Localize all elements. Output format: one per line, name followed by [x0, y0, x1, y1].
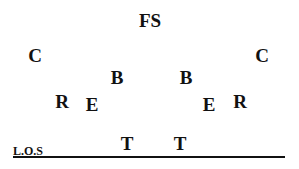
- player-end-right: E: [203, 95, 216, 114]
- line-of-scrimmage: [13, 156, 285, 158]
- player-cornerback-left: C: [28, 46, 42, 65]
- player-linebacker-right: B: [180, 68, 193, 87]
- player-linebacker-left: B: [111, 68, 124, 87]
- player-cornerback-right: C: [255, 46, 269, 65]
- player-end-left: E: [86, 95, 99, 114]
- player-tackle-right: T: [174, 134, 187, 153]
- player-r-right: R: [233, 92, 247, 111]
- player-free-safety: FS: [139, 11, 161, 30]
- player-tackle-left: T: [121, 134, 134, 153]
- formation-diagram: FS C C B B R E E R T T L.O.S: [0, 0, 299, 169]
- player-r-left: R: [55, 92, 69, 111]
